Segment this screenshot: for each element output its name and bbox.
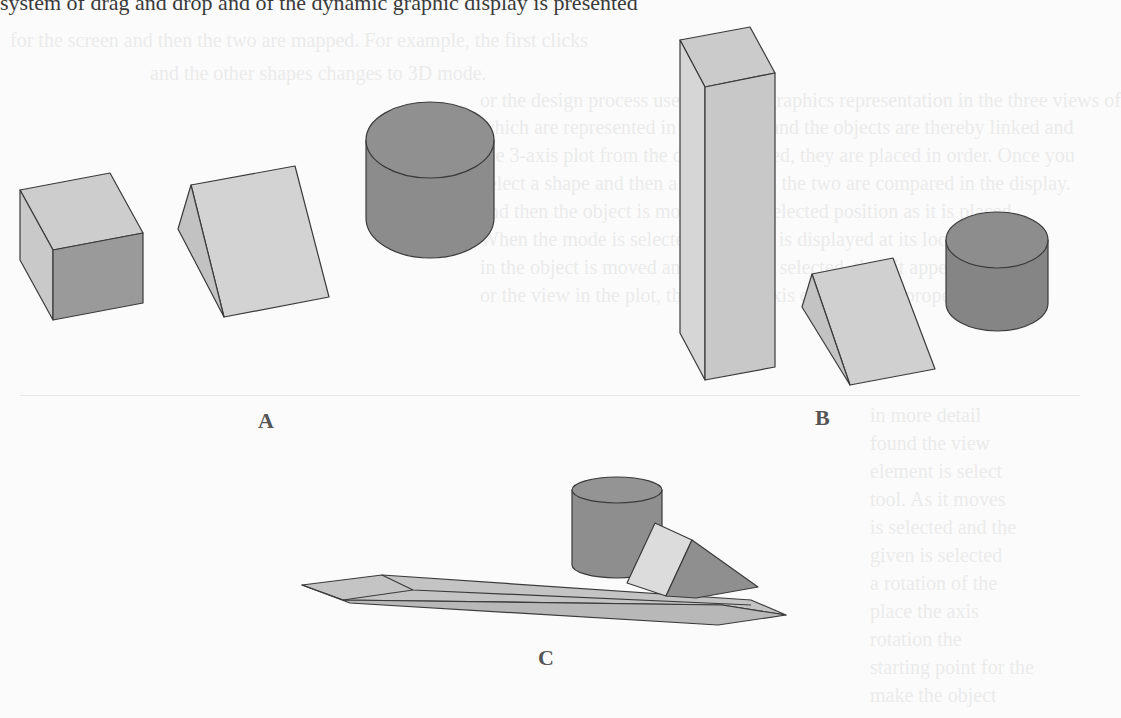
label-b: B <box>815 405 830 431</box>
group-a-cylinder <box>366 102 494 258</box>
label-a: A <box>258 408 274 434</box>
group-a-cube <box>20 173 143 320</box>
group-b-triangular-prism <box>802 258 935 385</box>
label-c: C <box>538 645 554 671</box>
group-b-tall-prism <box>680 27 775 380</box>
group-b-cylinder <box>946 212 1048 331</box>
group-a-triangular-prism <box>178 166 329 317</box>
